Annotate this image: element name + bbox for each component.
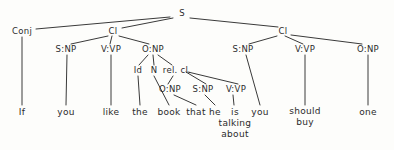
tree-node-n: N [151,66,158,75]
tree-edges-layer [0,0,394,150]
tree-node-c2snp: S:NP [233,45,254,54]
tree-leaf-w-book: book [157,107,180,118]
tree-node-id: Id [134,66,143,75]
tree-edge-c2snp-to-w-you2 [246,55,260,105]
tree-edge-c1onp-to-n [153,55,154,65]
tree-node-c2vvp: V:VP [295,45,315,54]
tree-node-s: S [179,9,185,18]
tree-node-rvvp: V:VP [226,85,246,94]
tree-node-c1onp: O:NP [142,45,164,54]
tree-leaf-w-the: the [132,107,148,118]
tree-leaf-w-you2: you [251,107,268,118]
tree-node-c2onp: O:NP [357,45,379,54]
tree-leaf-w-like: like [103,107,120,118]
syntax-tree-figure: SConjClClS:NPV:VPO:NPS:NPV:VPO:NPIdNrel.… [0,0,394,150]
tree-leaf-w-is: is talking about [219,107,252,140]
tree-leaf-w-you1: you [57,107,74,118]
tree-node-c1snp: S:NP [56,45,77,54]
tree-node-c1vvp: V:VP [101,45,121,54]
tree-node-relcl: rel. cl. [163,66,191,75]
tree-edge-ronp-to-w-that [174,95,196,105]
tree-node-rsnp: S:NP [193,85,214,94]
tree-edge-c1onp-to-id [139,55,148,65]
tree-edge-c1snp-to-w-you1 [66,55,67,105]
tree-edge-c1onp-to-relcl [158,55,172,65]
tree-leaf-w-should: should buy [289,106,321,128]
tree-leaf-w-that: that [186,107,205,118]
tree-node-ronp: O:NP [159,85,181,94]
tree-edge-rvvp-to-w-is [233,95,234,105]
tree-leaf-w-one: one [359,107,377,118]
tree-edge-s-to-cl2 [190,18,278,27]
tree-node-cl1: Cl [109,27,118,36]
tree-leaf-w-if: If [19,107,25,118]
tree-node-conj: Conj [12,27,32,36]
tree-edge-id-to-w-the [138,76,140,105]
tree-edge-rsnp-to-w-he [205,95,215,105]
tree-node-cl2: Cl [279,27,288,36]
